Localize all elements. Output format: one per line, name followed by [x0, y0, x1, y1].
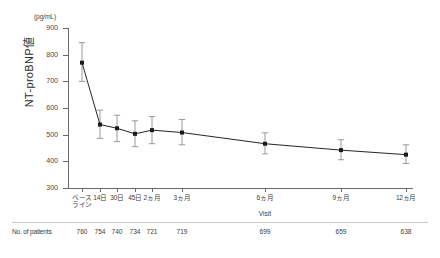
- error-bar: [79, 43, 85, 82]
- error-bar: [338, 140, 344, 160]
- data-point-marker: [404, 153, 408, 157]
- data-point-marker: [263, 142, 267, 146]
- error-bar: [149, 117, 155, 144]
- y-tick-label: 500: [32, 131, 58, 138]
- data-series-plot: [0, 0, 440, 258]
- x-tick-mark: [100, 188, 101, 192]
- x-axis-line: [68, 188, 413, 189]
- y-tick-mark: [63, 28, 68, 29]
- x-tick-mark: [406, 188, 407, 192]
- y-tick-label: 600: [32, 104, 58, 111]
- patients-count: 659: [327, 228, 355, 235]
- data-point-marker: [150, 128, 154, 132]
- error-bar: [114, 115, 120, 141]
- x-tick-label: 3ヵ月: [161, 194, 203, 201]
- y-tick-label: 900: [32, 24, 58, 31]
- y-tick-label: 700: [32, 77, 58, 84]
- x-axis-title: Visit: [240, 210, 290, 217]
- patients-count: 699: [251, 228, 279, 235]
- error-bar: [97, 110, 103, 138]
- x-tick-mark: [117, 188, 118, 192]
- series-line: [82, 63, 406, 155]
- patients-count: 638: [392, 228, 420, 235]
- data-point-marker: [339, 148, 343, 152]
- x-tick-mark: [82, 188, 83, 192]
- x-tick-label: 6ヵ月: [244, 194, 286, 201]
- patients-row-label: No. of patients: [12, 228, 52, 235]
- patients-count: 719: [168, 228, 196, 235]
- data-point-marker: [115, 126, 119, 130]
- x-tick-mark: [135, 188, 136, 192]
- chart-figure: (pg/mL) NT-proBNP値 300400500600700800900…: [0, 0, 440, 258]
- y-tick-mark: [63, 161, 68, 162]
- y-axis-title: NT-proBNP値: [20, 0, 36, 147]
- x-tick-mark: [341, 188, 342, 192]
- x-tick-mark: [152, 188, 153, 192]
- y-tick-label: 800: [32, 51, 58, 58]
- data-point-marker: [80, 61, 84, 65]
- y-tick-mark: [63, 55, 68, 56]
- y-tick-mark: [63, 108, 68, 109]
- footer-divider: [12, 222, 428, 223]
- error-bar: [132, 121, 138, 147]
- y-tick-label: 400: [32, 157, 58, 164]
- y-axis-unit-label: (pg/mL): [34, 13, 56, 20]
- x-tick-mark: [265, 188, 266, 192]
- error-bar: [403, 145, 409, 164]
- patients-count: 721: [138, 228, 166, 235]
- x-tick-label: 12ヵ月: [385, 194, 427, 201]
- y-tick-mark: [63, 188, 68, 189]
- y-tick-mark: [63, 135, 68, 136]
- y-tick-mark: [63, 81, 68, 82]
- x-tick-label: 9ヵ月: [320, 194, 362, 201]
- y-tick-label: 300: [32, 184, 58, 191]
- x-tick-mark: [182, 188, 183, 192]
- data-point-marker: [98, 123, 102, 127]
- y-axis-line: [68, 28, 69, 189]
- error-bar: [179, 119, 185, 144]
- data-point-marker: [180, 131, 184, 135]
- data-point-marker: [133, 132, 137, 136]
- error-bar: [262, 133, 268, 154]
